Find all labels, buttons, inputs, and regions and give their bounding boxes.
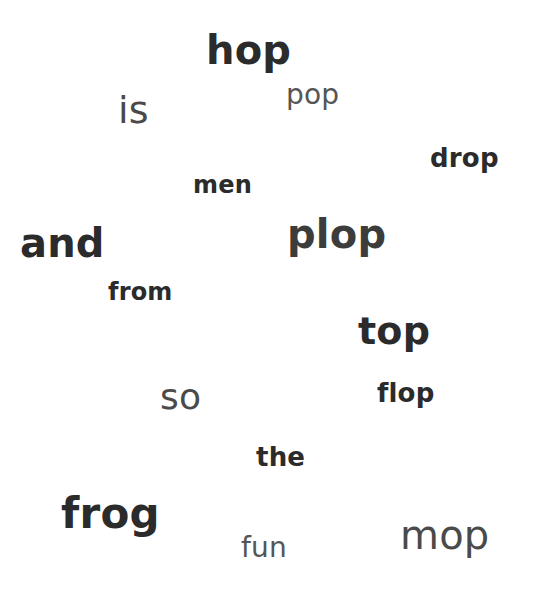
word-top: top [358,312,430,350]
word-from: from [108,280,173,304]
word-hop: hop [206,30,291,70]
word-the: the [256,444,305,470]
word-pop: pop [286,81,339,109]
word-is: is [118,91,149,129]
word-cloud-canvas: hop is pop drop men and plop from top so… [0,0,533,599]
word-frog: frog [61,493,160,535]
word-drop: drop [430,145,499,171]
word-and: and [20,223,105,263]
word-plop: plop [287,214,386,254]
word-mop: mop [400,515,489,555]
word-fun: fun [241,534,287,562]
word-flop: flop [377,380,435,406]
word-men: men [193,173,252,197]
word-so: so [160,379,201,415]
